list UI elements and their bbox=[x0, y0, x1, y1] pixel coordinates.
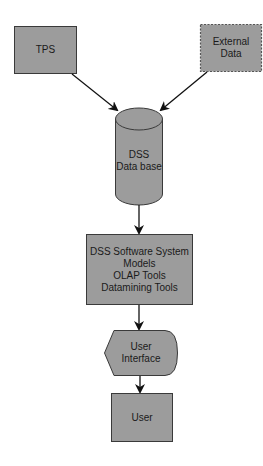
dss-database-node bbox=[116, 108, 163, 205]
external-data-node bbox=[201, 25, 262, 72]
user-interface-node bbox=[105, 331, 178, 376]
dss-diagram bbox=[0, 0, 263, 466]
user-node bbox=[112, 394, 173, 442]
edge-external-to-database bbox=[161, 72, 207, 110]
tps-node bbox=[15, 27, 77, 74]
dss-software-node bbox=[87, 235, 193, 305]
edge-tps-to-database bbox=[72, 74, 117, 110]
